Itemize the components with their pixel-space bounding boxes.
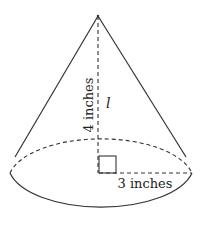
radius-label: 3 inches <box>118 176 173 191</box>
right-angle-marker <box>99 156 116 173</box>
cone-right-side <box>98 16 186 157</box>
cone-diagram: 4 inches l 3 inches <box>0 0 201 225</box>
apex-point <box>97 15 99 17</box>
slant-label: l <box>106 95 110 111</box>
height-label: 4 inches <box>81 78 96 133</box>
